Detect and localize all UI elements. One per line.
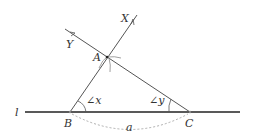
- label-y: Y: [66, 38, 75, 51]
- geometry-diagram: l B C a ∠x ∠y A X Y: [0, 0, 253, 139]
- ray-bx: [70, 15, 137, 112]
- diagram-svg: l B C a ∠x ∠y A X Y: [0, 0, 253, 139]
- label-a: A: [92, 51, 101, 64]
- point-c: [189, 111, 191, 113]
- point-b: [69, 111, 71, 113]
- label-c: C: [185, 117, 194, 130]
- angle-y-arc: [169, 99, 171, 112]
- label-l: l: [15, 106, 19, 119]
- label-angle-y: ∠y: [149, 94, 165, 107]
- point-a: [106, 56, 109, 59]
- ray-cy: [65, 29, 190, 112]
- angle-x-arc: [78, 101, 86, 112]
- label-a-side: a: [126, 121, 133, 134]
- label-angle-x: ∠x: [86, 94, 102, 107]
- label-b: B: [63, 117, 72, 130]
- label-x: X: [120, 12, 130, 25]
- construction-arc: [109, 58, 110, 72]
